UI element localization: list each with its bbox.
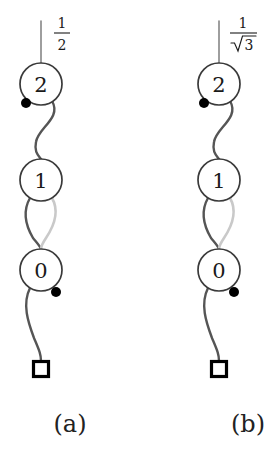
terminal-square[interactable] [212, 362, 227, 377]
endpoint-dot-upper [199, 98, 209, 108]
fraction-numerator: 1 [58, 15, 67, 31]
edge-2-to-1 [213, 101, 232, 159]
node-label-1: 1 [34, 169, 47, 193]
panel-caption-b: (b) [231, 410, 265, 438]
terminal-square[interactable] [34, 362, 49, 377]
edge-1-to-0-right [41, 198, 56, 249]
endpoint-dot-lower [229, 287, 239, 297]
edge-1-to-0-left [204, 198, 219, 249]
node-label-2: 2 [212, 73, 225, 97]
node-label-2: 2 [34, 73, 47, 97]
node-label-0: 0 [34, 259, 47, 283]
panel-a: 1 2 2 1 0 (a) [20, 15, 87, 438]
node-label-1: 1 [212, 169, 225, 193]
endpoint-dot-lower [51, 287, 61, 297]
node-label-0: 0 [212, 259, 225, 283]
endpoint-dot-upper [21, 98, 31, 108]
diagram-canvas: 1 2 2 1 0 (a) [0, 0, 280, 459]
edge-1-to-0-right [219, 198, 234, 249]
edge-1-to-0-left [26, 198, 41, 249]
figure-root: 1 2 2 1 0 (a) [0, 0, 280, 459]
fraction-denominator: 2 [58, 37, 67, 53]
panel-caption-a: (a) [53, 410, 86, 438]
edge-label-fraction: 1 2 [54, 15, 70, 53]
fraction-denominator: 3 [245, 37, 254, 53]
edge-0-to-terminal [26, 288, 41, 361]
edge-label-fraction: 1 3 [230, 15, 257, 53]
panel-b: 1 3 2 1 0 [198, 15, 265, 438]
edge-0-to-terminal [204, 288, 219, 361]
fraction-numerator: 1 [239, 15, 248, 31]
edge-2-to-1 [35, 101, 54, 159]
